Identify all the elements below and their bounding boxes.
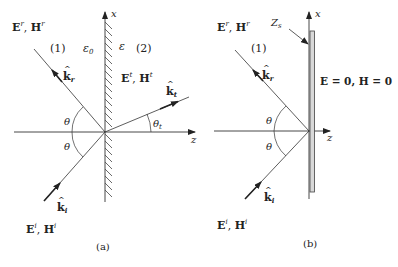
interface-hatching — [105, 22, 112, 197]
zero-fields-label: E = 0, H = 0 — [320, 75, 392, 87]
zs-label: Zs — [270, 17, 282, 30]
region-1-label-b: (1) — [251, 42, 267, 55]
transmitted-ray-arrow-a — [160, 102, 178, 110]
zs-pointer-arrow — [289, 29, 308, 44]
theta-lower-label-a: θ — [64, 141, 70, 152]
caption-a: (a) — [96, 241, 110, 252]
caption-b: (b) — [303, 238, 317, 249]
transmitted-fields-label: Et, Ht — [121, 71, 153, 85]
k-t-hat-a: ^ — [167, 79, 174, 88]
theta-t-arc-a — [147, 114, 151, 132]
reflection-transmission-diagram: Er, Hr (1) ε0 ε (2) Et, Ht kr ^ kt ^ ki … — [0, 0, 398, 267]
k-r-hat-a: ^ — [64, 64, 71, 73]
reflected-ray-arrow-a — [52, 70, 62, 82]
incident-ray-arrow-b — [245, 182, 261, 199]
k-i-hat-a: ^ — [58, 195, 65, 204]
panel-a: Er, Hr (1) ε0 ε (2) Et, Ht kr ^ kt ^ ki … — [12, 8, 197, 252]
theta-arc-lower-a — [72, 132, 83, 157]
incident-fields-label-a: Ei, Hi — [26, 222, 56, 236]
x-axis-label-b: x — [315, 8, 321, 19]
region-2-label-a: (2) — [136, 42, 152, 55]
epsilon-label: ε — [119, 40, 125, 53]
panel-b: Er, Hr Zs (1) E = 0, H = 0 kr ^ ki ^ θ θ… — [214, 8, 392, 249]
impedance-plate — [310, 31, 315, 192]
theta-t-label-a: θt — [153, 118, 162, 131]
incident-fields-label-b: Ei, Hi — [217, 218, 247, 232]
theta-upper-label-b: θ — [266, 115, 272, 126]
reflected-fields-label-a: Er, Hr — [12, 20, 45, 34]
theta-arc-lower-b — [274, 131, 286, 156]
theta-arc-upper-a — [72, 107, 83, 132]
region-1-label-a: (1) — [50, 42, 66, 55]
z-axis-label-b: z — [326, 132, 333, 143]
epsilon0-label: ε0 — [83, 42, 94, 56]
z-axis-label-a: z — [190, 134, 197, 145]
x-axis-label-a: x — [111, 8, 117, 19]
theta-upper-label-a: θ — [64, 116, 70, 127]
k-i-hat-b: ^ — [265, 185, 272, 194]
theta-arc-upper-b — [274, 106, 286, 131]
theta-lower-label-b: θ — [266, 141, 272, 152]
reflected-fields-label-b: Er, Hr — [217, 20, 250, 34]
k-r-hat-b: ^ — [263, 63, 270, 72]
